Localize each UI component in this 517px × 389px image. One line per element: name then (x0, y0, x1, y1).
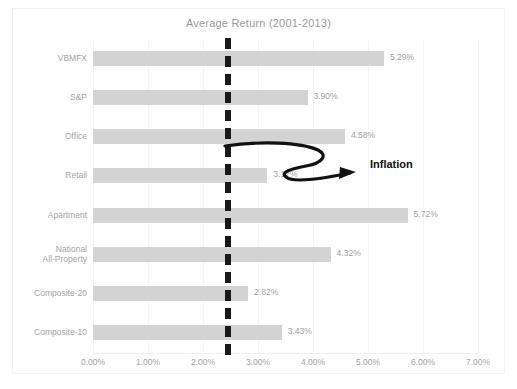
x-axis-tick-labels: 0.00%1.00%2.00%3.00%4.00%5.00%6.00%7.00% (93, 357, 478, 373)
bar-row[interactable]: 4.32% (93, 236, 478, 273)
bar[interactable] (93, 129, 345, 144)
bar-value-label: 3.90% (314, 91, 338, 101)
bar-value-label: 5.72% (414, 209, 438, 219)
y-axis-label-vbmfx: VBMFX (9, 53, 87, 63)
y-axis-label-s&p: S&P (9, 92, 87, 102)
bar-value-label: 4.32% (337, 248, 361, 258)
inflation-annotation-label: Inflation (370, 158, 413, 170)
x-tick-label: 0.00% (81, 357, 105, 367)
y-axis-category-labels: VBMFXS&POfficeRetailApartmentNational Al… (7, 40, 87, 353)
y-axis-label-national-all-property: National All-Property (9, 244, 87, 264)
gridline-7.00 (478, 40, 479, 353)
x-tick-label: 1.00% (136, 357, 160, 367)
bar-value-label: 4.58% (351, 130, 375, 140)
plot-area: 5.29%3.90%4.58%3.17%5.72%4.32%2.82%3.43% (93, 40, 478, 353)
y-axis-label-composite-10: Composite-10 (9, 327, 87, 337)
bar-row[interactable]: 4.58% (93, 118, 478, 155)
bar[interactable] (93, 208, 408, 223)
bar-row[interactable]: 3.43% (93, 314, 478, 351)
y-axis-label-composite-20: Composite-20 (9, 288, 87, 298)
bar[interactable] (93, 247, 331, 262)
bar[interactable] (93, 325, 282, 340)
bar-row[interactable]: 5.29% (93, 40, 478, 77)
bar[interactable] (93, 90, 308, 105)
average-return-bar-chart: Average Return (2001-2013) 5.29%3.90%4.5… (0, 0, 517, 389)
x-tick-label: 2.00% (191, 357, 215, 367)
x-tick-label: 5.00% (356, 357, 380, 367)
bar-value-label: 3.43% (288, 326, 312, 336)
inflation-reference-line (225, 38, 231, 362)
bar-value-label: 5.29% (390, 52, 414, 62)
bar-row[interactable]: 2.82% (93, 275, 478, 312)
x-tick-label: 3.00% (246, 357, 270, 367)
bar-row[interactable]: 3.90% (93, 79, 478, 116)
bar-value-label: 2.82% (254, 287, 278, 297)
x-tick-label: 6.00% (411, 357, 435, 367)
bar-row[interactable]: 5.72% (93, 197, 478, 234)
x-tick-label: 4.00% (301, 357, 325, 367)
bar[interactable] (93, 168, 267, 183)
bar-row[interactable]: 3.17% (93, 157, 478, 194)
x-tick-label: 7.00% (466, 357, 490, 367)
chart-title: Average Return (2001-2013) (0, 17, 517, 29)
bar-value-label: 3.17% (273, 169, 297, 179)
y-axis-label-retail: Retail (9, 170, 87, 180)
y-axis-label-office: Office (9, 131, 87, 141)
x-axis-baseline (93, 353, 478, 354)
bar[interactable] (93, 51, 384, 66)
y-axis-label-apartment: Apartment (9, 210, 87, 220)
